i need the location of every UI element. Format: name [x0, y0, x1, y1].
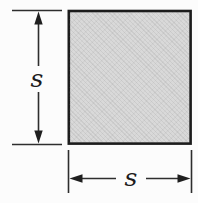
horizontal-dimension-label: s [125, 165, 138, 190]
arrowhead-up-icon [34, 12, 42, 25]
diagram-svg [0, 0, 198, 203]
vertical-dimension-label: s [31, 66, 44, 91]
arrowhead-right-icon [178, 174, 191, 182]
square-dimension-diagram: s s [0, 0, 198, 203]
arrowhead-left-icon [70, 174, 83, 182]
square-shape [69, 11, 191, 144]
arrowhead-down-icon [34, 131, 42, 144]
